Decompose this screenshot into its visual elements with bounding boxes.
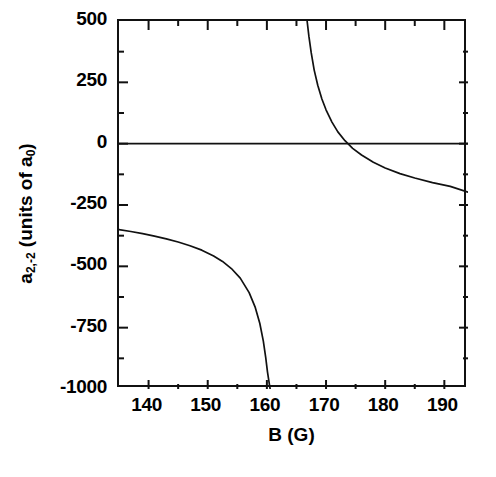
plot-area — [117, 19, 466, 387]
x-tick-label: 170 — [309, 394, 340, 416]
y-axis-title-units: (units of a — [15, 156, 36, 252]
y-axis-title-units-close: ) — [15, 143, 36, 149]
y-axis-title-symbol: a — [15, 273, 36, 284]
x-tick-label: 140 — [131, 394, 162, 416]
x-tick-label: 190 — [427, 394, 458, 416]
y-axis-title-units-subscript: 0 — [24, 150, 38, 157]
axis-ticks — [119, 21, 468, 389]
plot-canvas — [119, 21, 468, 389]
y-axis-title: a2,-2 (units of a0) — [15, 84, 38, 344]
x-tick-label: 160 — [249, 394, 280, 416]
data-curves — [119, 21, 468, 389]
x-axis-tick-labels: 140 150 160 170 180 190 — [0, 394, 496, 420]
y-tick-label: 250 — [76, 69, 107, 91]
x-tick-label: 180 — [368, 394, 399, 416]
x-tick-label: 150 — [190, 394, 221, 416]
chart-figure: 500 250 0 -250 -500 -750 -1000 a2,-2 (un… — [0, 0, 496, 477]
curve-a-2-2-upper-branch — [307, 21, 468, 192]
y-axis-title-symbol-subscript: 2,-2 — [24, 252, 38, 273]
y-tick-label: -250 — [70, 192, 107, 214]
y-tick-label: 0 — [97, 131, 107, 153]
y-tick-label: -500 — [70, 253, 107, 275]
curve-a-2-2-lower-branch — [119, 230, 270, 389]
y-tick-label: 500 — [76, 8, 107, 30]
y-tick-label: -750 — [70, 315, 107, 337]
x-axis-title: B (G) — [117, 424, 466, 446]
